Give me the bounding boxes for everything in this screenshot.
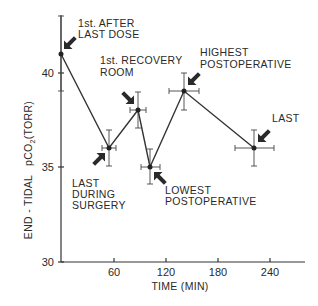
arrow-icon	[184, 69, 204, 89]
arrow-icon	[254, 126, 274, 146]
data-point	[252, 146, 257, 151]
x-axis-label: TIME (MIN)	[151, 280, 208, 292]
label-lowest-2: POSTOPERATIVE	[165, 195, 257, 207]
y-tick-35: 35	[42, 161, 54, 173]
data-point	[148, 165, 153, 170]
x-tick-60: 60	[108, 266, 120, 278]
y-axis-label: END - TIDAL pCO2(TORR)	[22, 101, 36, 239]
arrow-icon	[118, 88, 138, 108]
label-highest-2: POSTOPERATIVE	[200, 58, 292, 70]
label-surgery-3: SURGERY	[72, 199, 126, 211]
data-point	[136, 108, 141, 113]
data-point	[182, 89, 187, 94]
x-tick-240: 240	[261, 266, 279, 278]
label-recovery-2: ROOM	[100, 66, 134, 78]
svg-text:END - TIDAL pCO2(TORR): END - TIDAL pCO2(TORR)	[22, 101, 36, 239]
arrow-icon	[60, 33, 80, 53]
y-axis-label-main: END - TIDAL	[22, 175, 34, 239]
data-series-line	[61, 54, 254, 167]
y-tick-30: 30	[42, 256, 54, 268]
label-recovery-1: 1st. RECOVERY	[100, 54, 182, 66]
label-last: LAST	[272, 112, 300, 124]
error-bars	[58, 16, 274, 184]
label-after-dose-2: LAST DOSE	[78, 28, 139, 40]
axes	[58, 15, 305, 262]
data-point	[107, 146, 112, 151]
x-tick-120: 120	[157, 266, 175, 278]
data-point	[59, 52, 64, 57]
label-highest-1: HIGHEST	[200, 46, 249, 58]
line-chart: 40 35 30 60 120 180 240 TIME (MIN) END -…	[0, 0, 318, 306]
y-axis-label-sub: pCO	[22, 143, 34, 166]
y-tick-40: 40	[42, 67, 54, 79]
x-tick-180: 180	[209, 266, 227, 278]
